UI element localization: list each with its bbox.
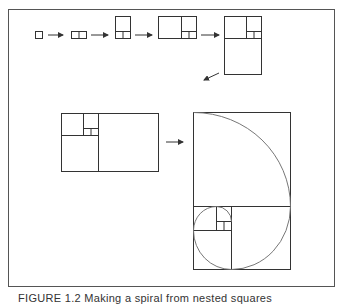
spiral-curve <box>194 113 291 270</box>
step-rect-2x1 <box>72 32 87 39</box>
step-golden-spiral <box>194 113 291 270</box>
arrow-icon <box>204 73 219 80</box>
figure-caption: FIGURE 1.2 Making a spiral from nested s… <box>18 292 272 304</box>
step-square-1x1 <box>36 32 43 39</box>
step-rect-13x8 <box>62 114 159 172</box>
step-rect-2x3 <box>116 17 131 39</box>
step-rect-5x8 <box>225 17 262 75</box>
step-rect-5x3 <box>159 17 197 39</box>
